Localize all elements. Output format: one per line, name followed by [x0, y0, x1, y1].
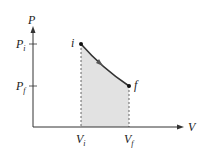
vf-label: Vf [124, 132, 135, 148]
y-axis-label: P [27, 13, 36, 27]
pi-label: Pi [15, 37, 26, 53]
work-area [81, 44, 129, 127]
vi-label: Vi [76, 132, 86, 148]
x-axis-arrow-icon [177, 125, 184, 130]
point-i [79, 42, 83, 46]
x-axis-label: V [188, 120, 197, 134]
y-axis-arrow-icon [31, 26, 36, 33]
pv-diagram: P V Pi Pf Vi Vf i f [0, 0, 206, 150]
point-f-label: f [134, 78, 139, 92]
point-i-label: i [71, 36, 74, 50]
pf-label: Pf [15, 79, 27, 95]
point-f [127, 84, 131, 88]
